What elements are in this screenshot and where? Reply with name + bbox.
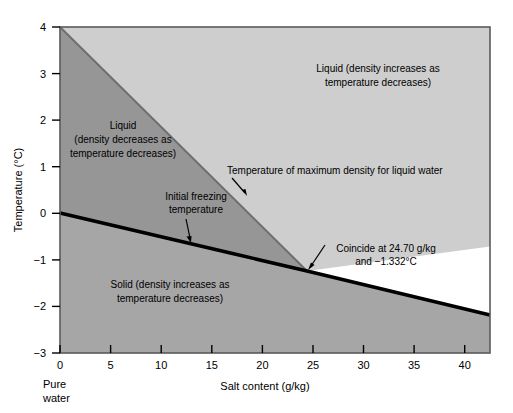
x-tick-label-25: 25 [307,359,319,371]
label-coincide-line2: and −1.332°C [355,256,417,267]
y-tick-label-neg1: −1 [33,254,46,266]
pure-water-note-line2: water [42,392,70,404]
label-liquid-density-decreases-line2: (density decreases as [74,134,171,145]
y-tick-label-1: 1 [40,161,46,173]
label-liquid-density-decreases-line3: temperature decreases) [70,148,176,159]
y-axis-tick-labels: 4 3 2 1 0 −1 −2 −3 [33,21,46,359]
x-tick-label-30: 30 [357,359,369,371]
y-axis-title: Temperature (°C) [12,148,24,232]
x-tick-label-0: 0 [57,359,63,371]
label-liquid-density-decreases-line1: Liquid [110,120,137,131]
phase-diagram-chart: 4 3 2 1 0 −1 −2 −3 0 5 10 15 20 [0,0,513,413]
x-tick-label-20: 20 [256,359,268,371]
label-initial-freezing-line2: temperature [169,204,223,215]
y-tick-label-3: 3 [40,68,46,80]
y-tick-label-2: 2 [40,114,46,126]
figure-container: 4 3 2 1 0 −1 −2 −3 0 5 10 15 20 [0,0,513,413]
y-tick-label-4: 4 [40,21,46,33]
x-tick-label-35: 35 [408,359,420,371]
label-coincide-line1: Coincide at 24.70 g/kg [336,243,436,254]
x-axis-tick-labels: 0 5 10 15 20 25 30 35 40 [57,359,471,371]
label-liquid-density-increases-line2: temperature decreases) [325,77,431,88]
y-tick-label-0: 0 [40,207,46,219]
x-axis-title: Salt content (g/kg) [220,380,309,392]
y-axis-ticks [52,27,60,353]
label-max-density-line: Temperature of maximum density for liqui… [227,165,443,176]
y-tick-label-neg2: −2 [33,300,46,312]
x-tick-label-15: 15 [206,359,218,371]
x-tick-label-40: 40 [459,359,471,371]
label-liquid-density-increases-line1: Liquid (density increases as [316,63,439,74]
label-initial-freezing-line1: Initial freezing [165,191,227,202]
y-tick-label-neg3: −3 [33,347,46,359]
label-solid-line2: temperature decreases) [117,293,223,304]
x-tick-label-5: 5 [108,359,114,371]
label-solid-line1: Solid (density increases as [111,279,230,290]
plot-regions [60,27,490,353]
pure-water-note-line1: Pure [43,378,66,390]
x-tick-label-10: 10 [155,359,167,371]
